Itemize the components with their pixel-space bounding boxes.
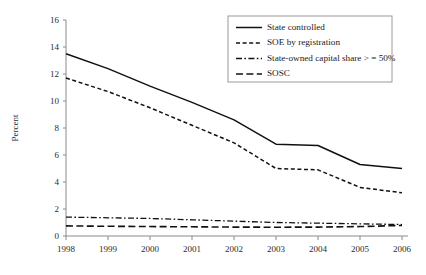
legend-label-1: SOE by registration <box>267 37 340 47</box>
y-axis: 0246810121416 <box>50 15 66 241</box>
y-tick-label: 4 <box>55 177 60 187</box>
line-chart: 0246810121416 19981999200020012002200320… <box>0 0 426 275</box>
x-tick-label: 2003 <box>267 244 286 254</box>
series-line-2 <box>66 217 402 224</box>
y-tick-label: 14 <box>50 42 60 52</box>
x-tick-label: 1998 <box>57 244 76 254</box>
series-line-3 <box>66 225 402 227</box>
x-tick-label: 1999 <box>99 244 118 254</box>
x-tick-label: 2002 <box>225 244 243 254</box>
series-line-1 <box>66 78 402 193</box>
y-tick-label: 10 <box>50 96 60 106</box>
x-axis: 199819992000200120022003200420052006 <box>57 236 412 254</box>
y-tick-label: 6 <box>55 150 60 160</box>
x-tick-label: 2005 <box>351 244 370 254</box>
legend-label-3: SOSC <box>267 68 290 78</box>
x-tick-label: 2000 <box>141 244 160 254</box>
x-tick-label: 2006 <box>393 244 412 254</box>
y-axis-title: Percent <box>10 114 20 141</box>
chart-container: 0246810121416 19981999200020012002200320… <box>0 0 426 275</box>
legend-label-0: State controlled <box>267 22 325 32</box>
x-tick-label: 2004 <box>309 244 328 254</box>
y-tick-label: 8 <box>55 123 60 133</box>
y-tick-label: 16 <box>50 15 60 25</box>
chart-legend: State controlledSOE by registrationState… <box>228 16 396 82</box>
y-tick-label: 12 <box>50 69 59 79</box>
y-tick-label: 2 <box>55 204 60 214</box>
y-tick-label: 0 <box>55 231 60 241</box>
legend-label-2: State-owned capital share > = 50% <box>267 53 396 63</box>
x-tick-label: 2001 <box>183 244 201 254</box>
